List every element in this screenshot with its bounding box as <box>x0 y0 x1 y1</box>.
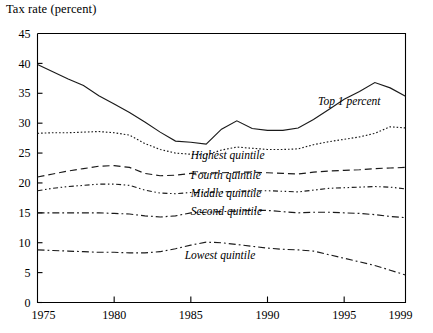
x-axis-tick-labels: 197519801985199019951999 <box>32 308 413 322</box>
y-tick-label: 0 <box>25 296 31 310</box>
y-axis-tick-labels: 051015202530354045 <box>19 27 31 310</box>
y-tick-label: 15 <box>19 206 31 220</box>
x-tick-label: 1985 <box>179 308 203 322</box>
tick-marks <box>38 63 345 302</box>
series-label-highest-quintile: Highest quintile <box>190 149 265 162</box>
y-tick-label: 10 <box>19 236 31 250</box>
tax-rate-line-chart: Tax rate (percent) 051015202530354045 19… <box>0 0 433 333</box>
x-tick-label: 1975 <box>32 308 56 322</box>
y-tick-label: 35 <box>19 86 31 100</box>
series-inline-labels: Top 1 percentHighest quintileFourth quin… <box>184 95 382 262</box>
y-tick-label: 45 <box>19 27 31 41</box>
y-tick-label: 40 <box>19 57 31 71</box>
x-tick-label: 1990 <box>256 308 280 322</box>
series-label-fourth-quintile: Fourth quintile <box>190 169 261 182</box>
y-tick-label: 25 <box>19 146 31 160</box>
x-tick-label: 1995 <box>332 308 356 322</box>
y-tick-label: 5 <box>25 266 31 280</box>
series-label-top-1-percent: Top 1 percent <box>318 95 381 108</box>
y-tick-label: 20 <box>19 176 31 190</box>
axes <box>38 34 406 303</box>
series-label-middle-quintile: Middle quintile <box>190 187 262 200</box>
series-label-lowest-quintile: Lowest quintile <box>184 249 256 262</box>
plot-frame <box>38 34 406 303</box>
plot-area: 051015202530354045 197519801985199019951… <box>0 0 433 333</box>
x-tick-label: 1980 <box>102 308 126 322</box>
series-label-second-quintile: Second quintile <box>191 205 262 218</box>
x-tick-label: 1999 <box>389 308 413 322</box>
y-tick-label: 30 <box>19 116 31 130</box>
